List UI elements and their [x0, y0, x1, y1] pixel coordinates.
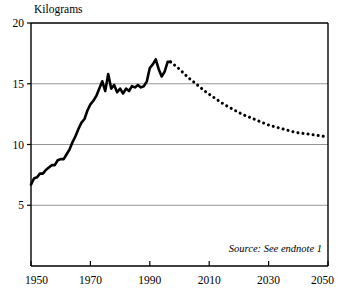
xtick-label-1990: 1990 — [138, 274, 161, 286]
source-annotation: Source: See endnote 1 — [229, 243, 322, 254]
ytick-label-20: 20 — [13, 17, 25, 29]
xtick-label-1950: 1950 — [25, 274, 48, 286]
xtick-label-2010: 2010 — [198, 274, 221, 286]
xtick-label-2030: 2030 — [257, 274, 280, 286]
xtick-label-2050: 2050 — [311, 274, 334, 286]
xtick-label-1970: 1970 — [79, 274, 102, 286]
ytick-label-10: 10 — [13, 139, 25, 151]
chart-canvas: 5101520 195019701990201020302050 Kilogra… — [0, 0, 347, 294]
ytick-label-15: 15 — [13, 78, 25, 90]
chart-title: Kilograms — [34, 3, 83, 16]
ytick-label-5: 5 — [18, 199, 24, 211]
chart-figure: 5101520 195019701990201020302050 Kilogra… — [0, 0, 347, 294]
